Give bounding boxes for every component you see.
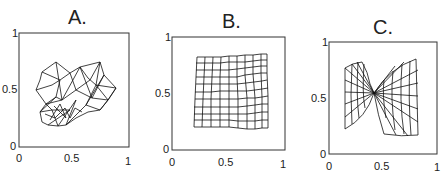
panel-b-ytick-0: 0: [163, 143, 169, 155]
panel-c-title: C.: [373, 16, 393, 39]
panel-a-xtick-0: 0: [16, 152, 22, 164]
panel-c-xtick-05: 0.5: [374, 160, 389, 172]
panel-c-ytick-0: 0: [320, 148, 326, 160]
panel-a-xtick-1: 1: [125, 155, 131, 167]
panel-a-mesh: [36, 62, 116, 126]
panel-c-xtick-0: 0: [326, 160, 332, 172]
panel-a-ytick-0: 0: [10, 140, 16, 152]
panel-a-xtick-05: 0.5: [64, 152, 79, 164]
panel-c-xtick-1: 1: [434, 161, 440, 173]
panel-b-xtick-0: 0: [169, 156, 175, 168]
panel-b-xtick-1: 1: [280, 158, 286, 170]
panel-a-ytick-05: 0.5: [2, 83, 17, 95]
panel-b-xtick-05: 0.5: [218, 156, 233, 168]
panel-c-grid: [345, 59, 418, 136]
panel-c-ytick-05: 0.5: [311, 92, 326, 104]
panel-b-title: B.: [222, 10, 241, 33]
panel-b-ytick-05: 0.5: [155, 87, 170, 99]
panel-a-title: A.: [68, 6, 87, 29]
panel-b-ytick-1: 1: [165, 31, 171, 43]
panel-c-ytick-1: 1: [322, 36, 328, 48]
panel-b-grid: [194, 54, 268, 129]
panel-a-ytick-1: 1: [12, 27, 18, 39]
panel-a-axes: [19, 33, 129, 147]
